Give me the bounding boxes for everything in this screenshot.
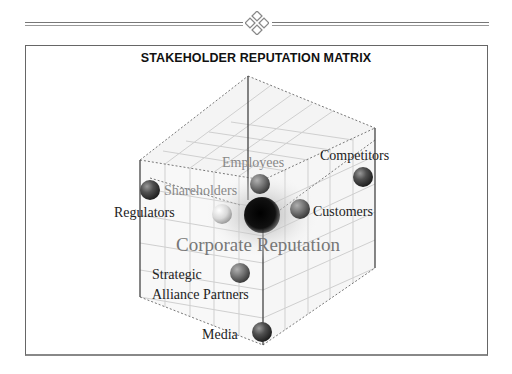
label-customers: Customers [313,205,373,219]
label-competitors: Competitors [320,149,389,163]
sphere-employees [250,174,270,194]
sphere-shareholders [212,204,232,224]
label-employees: Employees [222,156,284,170]
sphere-competitors [353,167,373,187]
label-shareholders: Shareholders [164,184,237,198]
label-regulators: Regulators [114,206,175,220]
sphere-regulators [140,180,160,200]
label-strategic: Strategic [152,268,202,282]
sphere-corporate-reputation [244,197,280,233]
label-alliance-partners: Alliance Partners [152,288,249,302]
label-media: Media [202,328,238,342]
sphere-media [252,322,272,342]
sphere-customers [290,199,310,219]
reputation-cube [0,0,512,374]
label-corporate-reputation: Corporate Reputation [176,235,340,254]
sphere-strategic-alliance-partners [230,263,250,283]
